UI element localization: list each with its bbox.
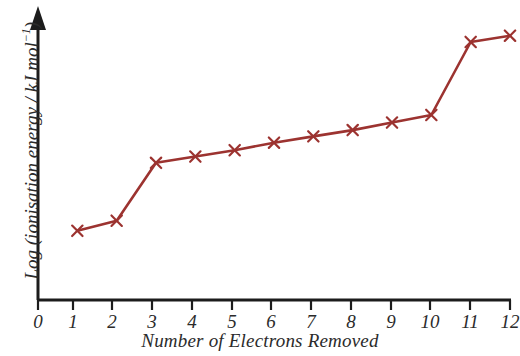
x-tick-label-5: 5 xyxy=(217,312,247,331)
y-axis-title-tail: ) xyxy=(21,22,42,28)
x-axis-title: Number of Electrons Removed xyxy=(0,330,520,352)
x-axis xyxy=(37,300,511,310)
series-line xyxy=(77,36,510,231)
y-axis-title-base: Log (ionisation energy / kJ mol xyxy=(21,42,42,279)
x-tick-label-8: 8 xyxy=(336,312,366,331)
x-tick-label-9: 9 xyxy=(376,312,406,331)
ionisation-energy-chart: 0 1 2 3 4 5 6 7 8 9 10 11 12 Number of E… xyxy=(0,0,520,356)
x-tick-label-6: 6 xyxy=(256,312,286,331)
plot-area xyxy=(0,0,520,356)
x-tick-label-2: 2 xyxy=(97,312,127,331)
y-axis-title: Log (ionisation energy / kJ mol−1) xyxy=(19,11,42,291)
x-tick-label-11: 11 xyxy=(455,312,485,331)
x-tick-label-10: 10 xyxy=(415,312,445,331)
x-tick-label-3: 3 xyxy=(137,312,167,331)
x-tick-label-0: 0 xyxy=(23,312,53,331)
y-axis-title-exponent: −1 xyxy=(19,28,33,42)
x-tick-label-4: 4 xyxy=(177,312,207,331)
x-tick-label-12: 12 xyxy=(495,312,520,331)
data-series xyxy=(72,30,515,235)
x-tick-label-1: 1 xyxy=(58,312,88,331)
x-tick-label-7: 7 xyxy=(296,312,326,331)
